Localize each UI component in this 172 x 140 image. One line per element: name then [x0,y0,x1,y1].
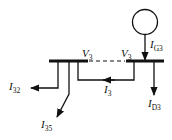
label-i-g3: IG3 [149,38,163,53]
label-i-32: I32 [8,80,20,95]
label-i-35: I35 [40,118,52,133]
bus-diagram: V3 V3 IG3 I3 ID3 I32 I35 [0,0,172,140]
label-i-d3: ID3 [147,97,161,112]
label-i-3: I3 [103,83,112,98]
i32-path [31,61,58,88]
generator-icon [133,10,158,35]
i3-path [78,61,134,80]
i35-path [57,61,69,117]
